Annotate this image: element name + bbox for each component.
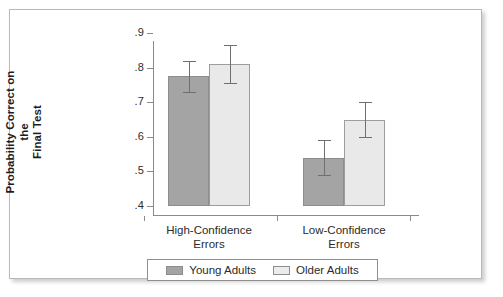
error-bar-stem <box>324 140 325 175</box>
legend-label: Older Adults <box>296 264 359 276</box>
legend-label: Young Adults <box>189 264 256 276</box>
x-axis-category-label-line-2: Errors <box>134 237 284 251</box>
x-axis-tick-mark <box>277 216 278 221</box>
y-axis-tick-label-text: .4 <box>118 200 144 211</box>
y-axis-tick-label-text: .7 <box>118 96 144 107</box>
error-bar-cap-lower <box>224 83 237 84</box>
x-axis-category-label-line-2: Errors <box>269 237 419 251</box>
error-bar-cap-upper <box>224 45 237 46</box>
figure-root: Probability Correct on the Final Test .9… <box>0 0 503 297</box>
y-axis-tick-mark <box>147 137 153 138</box>
bar-young-adults <box>168 76 209 206</box>
legend: Young AdultsOlder Adults <box>147 259 378 281</box>
x-axis-category-label: Low-ConfidenceErrors <box>269 223 419 251</box>
legend-swatch <box>166 266 183 275</box>
y-axis-tick-label-text: .5 <box>118 165 144 176</box>
y-axis-tick-label: .5 <box>116 165 144 176</box>
y-axis-title: Probability Correct on the Final Test <box>4 62 44 202</box>
y-axis-tick-label: .9 <box>116 27 144 38</box>
y-axis-tick-mark <box>147 68 153 69</box>
y-axis-line <box>153 41 154 216</box>
y-axis-tick-mark <box>147 102 153 103</box>
y-axis-tick-label: .8 <box>116 62 144 73</box>
error-bar-stem <box>365 102 366 137</box>
y-axis-tick-label-text: .8 <box>118 62 144 73</box>
y-axis-tick-mark <box>147 171 153 172</box>
error-bar-cap-upper <box>183 61 196 62</box>
error-bar-cap-upper <box>318 140 331 141</box>
legend-item-young-adults: Young Adults <box>166 264 256 276</box>
x-axis-category-label-line-1: Low-Confidence <box>269 223 419 237</box>
error-bar-cap-lower <box>318 175 331 176</box>
error-bar-cap-lower <box>359 137 372 138</box>
y-axis-tick-mark <box>147 33 153 34</box>
y-axis-tick-label: .6 <box>116 131 144 142</box>
y-axis-tick-mark <box>147 206 153 207</box>
x-axis-line <box>153 215 419 216</box>
y-axis-title-line-2: Final Test <box>31 62 45 202</box>
error-bar-stem <box>230 45 231 83</box>
y-axis-title-line-1: Probability Correct on the <box>4 62 31 202</box>
y-axis-tick-label-text: .9 <box>118 27 144 38</box>
figure-frame: Probability Correct on the Final Test .9… <box>9 9 482 279</box>
y-axis-tick-label: .4 <box>116 200 144 211</box>
bar-older-adults <box>209 64 250 206</box>
x-axis-tick-mark <box>144 216 145 221</box>
x-axis-tick-mark <box>410 216 411 221</box>
y-axis-tick-label: .7 <box>116 96 144 107</box>
y-axis-tick-label-text: .6 <box>118 131 144 142</box>
error-bar-cap-lower <box>183 92 196 93</box>
legend-swatch <box>273 266 290 275</box>
x-axis-category-label: High-ConfidenceErrors <box>134 223 284 251</box>
x-axis-category-label-line-1: High-Confidence <box>134 223 284 237</box>
legend-item-older-adults: Older Adults <box>273 264 359 276</box>
error-bar-cap-upper <box>359 102 372 103</box>
error-bar-stem <box>189 61 190 92</box>
